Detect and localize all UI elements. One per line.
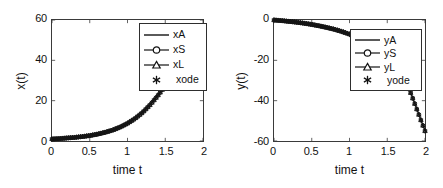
legend-triangle-marker-icon (143, 59, 170, 71)
legend-x-panel[interactable]: xA xS xL (139, 23, 207, 91)
legend-item-xS[interactable]: xS (143, 42, 202, 57)
legend-asterisk-marker-icon (354, 74, 381, 86)
x-tick-y-4: 2 (423, 145, 429, 157)
legend-triangle-marker-icon (354, 61, 381, 73)
legend-label-xS: xS (173, 44, 185, 55)
legend-asterisk-marker-icon (143, 74, 170, 86)
x-tick-x-0: 0 (48, 145, 54, 157)
figure-container: x(t) 60 40 20 0 0 0.5 1 1.5 2 time t xA (0, 0, 443, 188)
legend-y-panel[interactable]: yA yS yL (350, 29, 422, 91)
legend-label-yS: yS (384, 48, 396, 59)
x-tick-y-2: 1 (346, 145, 352, 157)
legend-label-yode: yode (387, 75, 410, 86)
x-tick-x-2: 1 (124, 145, 130, 157)
legend-label-xL: xL (173, 59, 184, 70)
legend-item-yA[interactable]: yA (354, 33, 417, 47)
x-tick-x-4: 2 (201, 145, 207, 157)
legend-item-xA[interactable]: xA (143, 27, 202, 42)
legend-item-yL[interactable]: yL (354, 60, 417, 74)
y-axis-title-y-panel: y(t) (234, 51, 248, 111)
x-tick-x-1: 0.5 (82, 145, 97, 157)
x-axis-title-y-panel: time t (273, 163, 426, 177)
plot-panel-y: y(t) 0 -20 -40 -60 0 0.5 1 1.5 2 time t … (222, 0, 443, 188)
legend-item-yS[interactable]: yS (354, 47, 417, 61)
x-tick-y-1: 0.5 (304, 145, 319, 157)
legend-item-xL[interactable]: xL (143, 57, 202, 72)
legend-item-yode[interactable]: yode (354, 74, 417, 88)
legend-label-yL: yL (384, 62, 395, 73)
legend-label-yA: yA (384, 35, 396, 46)
legend-circle-marker-icon (354, 47, 381, 59)
x-axis-title-x-panel: time t (51, 163, 204, 177)
legend-item-xode[interactable]: xode (143, 72, 202, 87)
plot-panel-x: x(t) 60 40 20 0 0 0.5 1 1.5 2 time t xA (0, 0, 221, 188)
y-axis-title-x-panel: x(t) (14, 51, 28, 111)
x-tick-x-3: 1.5 (159, 145, 174, 157)
legend-label-xode: xode (176, 74, 199, 85)
x-tick-y-3: 1.5 (381, 145, 396, 157)
legend-line-icon (143, 29, 170, 41)
legend-circle-marker-icon (143, 44, 170, 56)
x-tick-y-0: 0 (270, 145, 276, 157)
legend-label-xA: xA (173, 29, 185, 40)
legend-line-icon (354, 34, 381, 46)
